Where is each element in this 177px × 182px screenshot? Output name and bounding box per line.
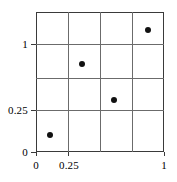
data-point xyxy=(145,27,151,33)
gridline-vertical-2 xyxy=(100,12,101,152)
gridline-vertical-3 xyxy=(132,12,133,152)
scatter-chart: 1 0.25 0 0 0.25 1 xyxy=(0,0,177,182)
gridline-horizontal-1 xyxy=(36,44,164,45)
y-tick-mark-1 xyxy=(31,44,36,45)
y-axis-label-0: 0 xyxy=(22,147,28,158)
data-point xyxy=(111,97,117,103)
gridline-horizontal-2 xyxy=(36,78,164,79)
x-axis-label-0: 0 xyxy=(33,160,39,171)
y-axis-label-0p25: 0.25 xyxy=(8,105,28,116)
gridline-vertical-1 xyxy=(68,12,69,152)
x-axis-label-0p25: 0.25 xyxy=(59,160,79,171)
y-axis-label-1: 1 xyxy=(22,39,28,50)
data-point xyxy=(79,61,85,67)
x-tick-mark-0p25 xyxy=(68,152,69,156)
y-tick-mark-0p25 xyxy=(31,110,36,111)
x-tick-mark-1 xyxy=(164,152,165,156)
x-axis-label-1: 1 xyxy=(161,160,167,171)
gridline-horizontal-3 xyxy=(36,110,164,111)
x-tick-mark-0 xyxy=(36,152,37,156)
data-point xyxy=(47,132,53,138)
